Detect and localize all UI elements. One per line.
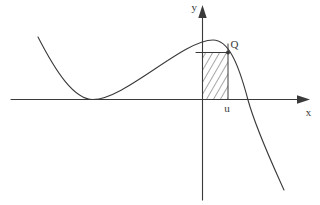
function-curve [38, 37, 284, 190]
y-axis-label: y [192, 1, 198, 13]
x-axis-arrowhead [297, 95, 310, 103]
u-label: u [224, 102, 230, 114]
figure-ink [11, 16, 299, 200]
point-q-dot [226, 51, 230, 55]
figure-canvas: y x Q u [0, 0, 320, 205]
hatched-region [203, 53, 229, 100]
point-q-label: Q [231, 38, 239, 50]
x-axis-label: x [306, 106, 312, 118]
y-axis-arrowhead [198, 5, 206, 18]
math-figure: y x Q u [0, 0, 320, 205]
